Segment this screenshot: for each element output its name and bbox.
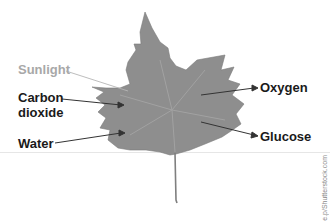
label-oxygen: Oxygen [260, 80, 308, 95]
watermark: e.p/Shutterstock.com [321, 155, 328, 221]
label-carbon-line1: Carbon [18, 90, 64, 105]
label-carbon-dioxide: Carbon dioxide [18, 90, 64, 120]
label-glucose: Glucose [260, 129, 311, 144]
leaf-stem [175, 153, 177, 203]
label-water: Water [18, 136, 54, 151]
label-carbon-line2: dioxide [18, 105, 64, 120]
label-sunlight: Sunlight [18, 62, 70, 77]
